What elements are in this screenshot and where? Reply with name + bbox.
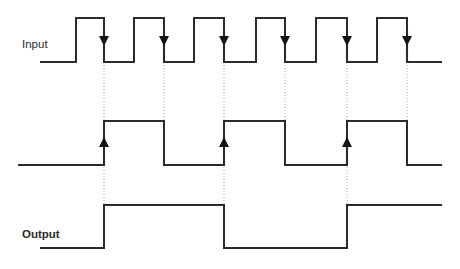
guide-lines-group bbox=[104, 62, 407, 205]
falling-edge-arrow-head-icon bbox=[402, 36, 412, 46]
falling-edge-arrow-head-icon bbox=[280, 36, 290, 46]
waveform-trace-input bbox=[40, 18, 442, 62]
falling-edge-arrow-head-icon bbox=[219, 36, 229, 46]
waveform-traces-group bbox=[18, 18, 442, 248]
timing-diagram-canvas: Input Output bbox=[0, 0, 460, 269]
rising-edge-arrow-head-icon bbox=[99, 137, 109, 147]
rising-edge-arrow-head-icon bbox=[219, 137, 229, 147]
rising-edge-arrow-head-icon bbox=[342, 137, 352, 147]
timing-diagram: Input Output bbox=[0, 0, 460, 269]
falling-edge-arrow-head-icon bbox=[99, 36, 109, 46]
waveform-trace-middle bbox=[18, 121, 442, 165]
falling-edge-arrow-head-icon bbox=[342, 36, 352, 46]
output-signal-label: Output bbox=[22, 228, 60, 240]
falling-edge-arrow-head-icon bbox=[159, 36, 169, 46]
input-signal-label: Input bbox=[22, 38, 48, 50]
waveform-trace-output bbox=[40, 205, 442, 248]
